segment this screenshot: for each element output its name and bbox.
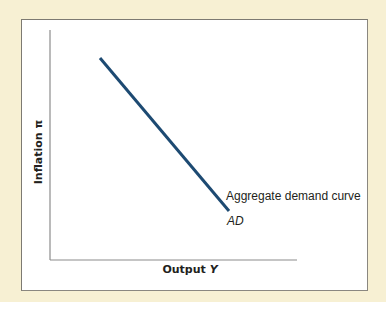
x-axis-label-text: Output xyxy=(162,263,209,276)
aggregate-demand-line xyxy=(100,58,229,211)
curve-abbreviation: AD xyxy=(227,214,244,228)
x-axis-label-variable: Y xyxy=(210,263,218,276)
y-axis-label: Inflation π xyxy=(32,120,45,184)
curve-label: Aggregate demand curve xyxy=(226,189,361,203)
x-axis-label: Output Y xyxy=(162,263,217,276)
